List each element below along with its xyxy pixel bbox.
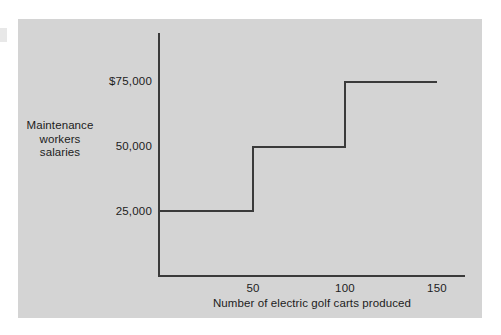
x-tick-label-50: 50 bbox=[231, 282, 275, 294]
x-axis-line bbox=[158, 275, 465, 277]
y-axis-line bbox=[158, 33, 160, 276]
x-axis-title: Number of electric golf carts produced bbox=[158, 297, 466, 309]
step-segment-25000 bbox=[158, 210, 253, 212]
step-segment-50000 bbox=[252, 146, 345, 148]
step-segment-75000 bbox=[344, 81, 437, 83]
y-tick-label-25000: 25,000 bbox=[82, 205, 152, 217]
y-tick-label-50000: 50,000 bbox=[82, 140, 152, 152]
step-riser-at-100 bbox=[344, 81, 346, 148]
figure-card: Maintenance workers salaries $75,000 50,… bbox=[18, 19, 482, 318]
x-tick-label-150: 150 bbox=[415, 282, 459, 294]
x-tick-label-100: 100 bbox=[323, 282, 367, 294]
y-tick-label-75000: $75,000 bbox=[82, 75, 152, 87]
page-edge-artifact bbox=[0, 28, 7, 42]
y-axis-title-line-1: Maintenance bbox=[20, 119, 100, 133]
step-riser-at-50 bbox=[252, 146, 254, 212]
